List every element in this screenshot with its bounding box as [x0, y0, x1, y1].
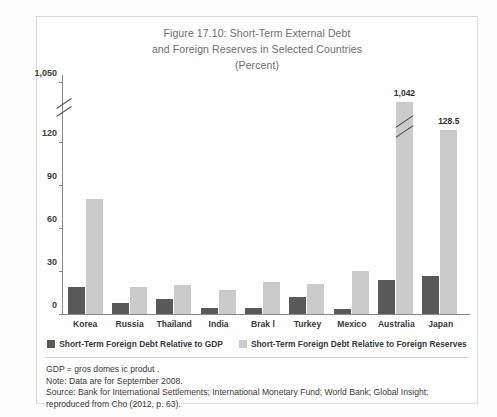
legend-swatch-reserves-icon [239, 340, 247, 348]
bar-reserves-india[interactable] [219, 290, 236, 314]
bar-value-japan-reserves: 128.5 [438, 116, 459, 126]
y-tick-mark-60 [59, 228, 62, 229]
bar-group-mexico [329, 75, 373, 314]
x-axis-line [62, 314, 470, 315]
bar-reserves-japan[interactable]: 128.5 [440, 130, 457, 314]
figure-frame: Figure 17.10: Short-Term External Debt a… [36, 16, 478, 404]
y-tick-label-120: 120 [42, 128, 57, 138]
bar-debt-turkey[interactable] [289, 297, 306, 314]
bar-group-turkey [285, 75, 329, 314]
bar-value-australia-reserves: 1,042 [394, 88, 415, 98]
note-data-period: Note: Data are for September 2008. [46, 376, 468, 388]
legend-divider [45, 357, 469, 358]
bar-reserves-russia[interactable] [130, 287, 147, 314]
legend-swatch-debt-icon [47, 340, 55, 348]
x-label-mexico: Mexico [330, 319, 374, 329]
bar-reserves-korea[interactable] [86, 199, 103, 314]
bar-group-korea [63, 75, 107, 314]
chart-title-line-3: (Percent) [37, 57, 477, 73]
bar-groups: 1,042 128.5 [63, 75, 462, 314]
y-tick-label-30: 30 [47, 257, 57, 267]
bar-break-icon-australia [394, 116, 415, 138]
bar-debt-japan[interactable] [422, 276, 439, 314]
x-label-japan: Japan [419, 319, 463, 329]
bar-group-russia [107, 75, 151, 314]
legend-item-debt: Short-Term Foreign Debt Relative to GDP [47, 339, 223, 349]
bar-debt-mexico[interactable] [334, 309, 351, 314]
bar-debt-australia[interactable] [378, 280, 395, 314]
y-tick-mark-1050 [59, 82, 62, 83]
x-label-brazil: Brak l [241, 319, 285, 329]
chart-title-line-1: Figure 17.10: Short-Term External Debt [37, 25, 477, 41]
bar-reserves-thailand[interactable] [174, 285, 191, 314]
bar-reserves-brazil[interactable] [263, 282, 280, 314]
bar-debt-korea[interactable] [68, 287, 85, 314]
bar-reserves-mexico[interactable] [352, 271, 369, 314]
bar-debt-brazil[interactable] [245, 308, 262, 314]
y-tick-mark-30 [59, 271, 62, 272]
x-axis-category-labels: Korea Russia Thailand India Brak l Turke… [63, 319, 463, 329]
y-tick-label-0: 0 [52, 300, 57, 310]
legend-label-reserves: Short-Term Foreign Debt Relative to Fore… [251, 339, 467, 349]
bar-group-india [196, 75, 240, 314]
bar-debt-russia[interactable] [112, 303, 129, 314]
chart-title-line-2: and Foreign Reserves in Selected Countri… [37, 41, 477, 57]
bar-group-australia: 1,042 [373, 75, 417, 314]
x-label-turkey: Turkey [285, 319, 329, 329]
x-label-thailand: Thailand [152, 319, 196, 329]
x-label-india: India [196, 319, 240, 329]
bar-debt-india[interactable] [201, 308, 218, 314]
bar-group-thailand [152, 75, 196, 314]
y-tick-label-60: 60 [47, 214, 57, 224]
bar-reserves-australia[interactable]: 1,042 [396, 102, 413, 314]
note-abbreviation: GDP = gros domes ic produt . [46, 364, 468, 376]
x-label-korea: Korea [63, 319, 107, 329]
note-source-line-2: reproduced from Cho (2012, p. 63). [46, 399, 468, 411]
legend-label-debt: Short-Term Foreign Debt Relative to GDP [59, 339, 223, 349]
plot-area: 0 30 60 90 120 1,050 [62, 75, 462, 315]
bar-reserves-turkey[interactable] [307, 284, 324, 314]
bar-debt-thailand[interactable] [156, 299, 173, 314]
x-label-australia: Australia [374, 319, 418, 329]
note-source-line-1: Source: Bank for International Settlemen… [46, 387, 468, 399]
y-tick-mark-120 [59, 142, 62, 143]
legend-item-reserves: Short-Term Foreign Debt Relative to Fore… [239, 339, 467, 349]
y-tick-label-1050: 1,050 [34, 68, 57, 78]
y-tick-label-90: 90 [47, 171, 57, 181]
bar-group-brazil [240, 75, 284, 314]
bar-group-japan: 128.5 [418, 75, 462, 314]
chart-title: Figure 17.10: Short-Term External Debt a… [37, 25, 477, 73]
chart-legend: Short-Term Foreign Debt Relative to GDP … [37, 339, 477, 349]
figure-notes: GDP = gros domes ic produt . Note: Data … [46, 364, 468, 410]
y-tick-mark-0 [59, 314, 62, 315]
x-label-russia: Russia [107, 319, 151, 329]
y-tick-mark-90 [59, 185, 62, 186]
